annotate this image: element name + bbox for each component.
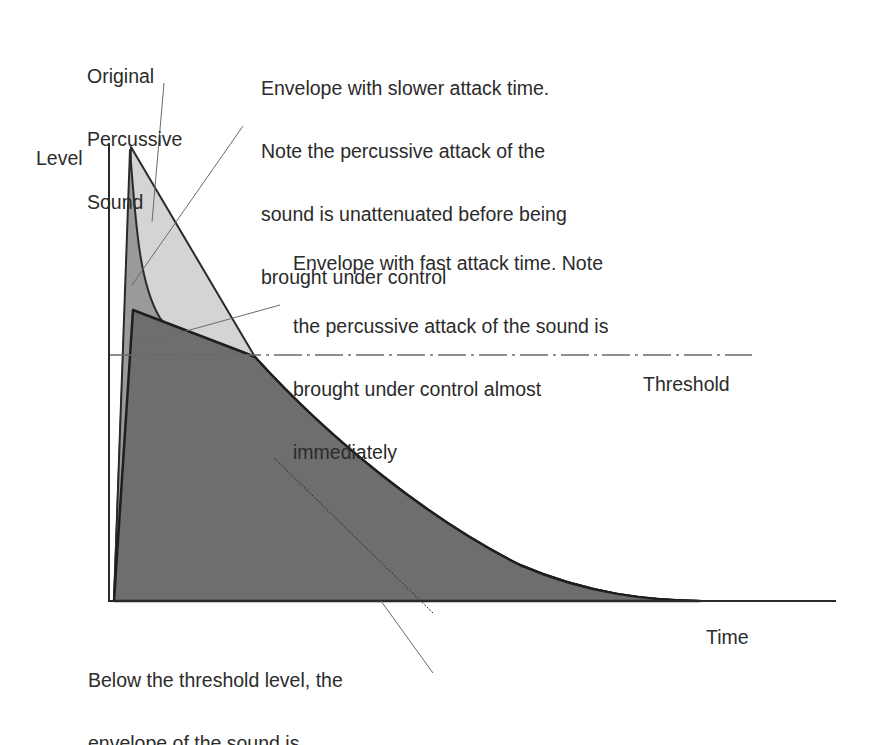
- annotation-original-sound: Original Percussive Sound: [87, 24, 182, 234]
- annotation-line: Percussive: [87, 129, 182, 150]
- threshold-label: Threshold: [643, 374, 730, 395]
- annotation-line: brought under control almost: [293, 379, 608, 400]
- annotation-below-threshold: Below the threshold level, the envelope …: [88, 628, 380, 745]
- annotation-line: envelope of the sound is: [88, 733, 380, 745]
- annotation-line: immediately: [293, 442, 608, 463]
- leader-line-below-threshold-tail: [433, 613, 447, 676]
- leader-line-below-threshold-ext: [381, 601, 433, 673]
- y-axis-label: Level: [36, 148, 83, 169]
- annotation-fast-attack: Envelope with fast attack time. Note the…: [293, 211, 608, 484]
- annotation-line: Below the threshold level, the: [88, 670, 380, 691]
- annotation-line: Envelope with slower attack time.: [261, 78, 567, 99]
- annotation-line: the percussive attack of the sound is: [293, 316, 608, 337]
- x-axis-label: Time: [706, 627, 749, 648]
- annotation-line: Note the percussive attack of the: [261, 141, 567, 162]
- annotation-line: Envelope with fast attack time. Note: [293, 253, 608, 274]
- annotation-line: Sound: [87, 192, 182, 213]
- annotation-line: Original: [87, 66, 182, 87]
